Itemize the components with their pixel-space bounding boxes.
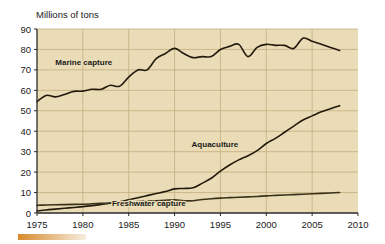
decorative-bottom-bar bbox=[18, 234, 86, 240]
series-label-freshwater-capture: Freshwater capture bbox=[112, 199, 186, 208]
bottom-bar-swatch bbox=[18, 234, 86, 240]
y-tick-label: 30 bbox=[20, 146, 31, 157]
x-tick-label: 1995 bbox=[210, 219, 231, 230]
x-tick-label: 1990 bbox=[164, 219, 185, 230]
x-tick-label: 1985 bbox=[118, 219, 139, 230]
x-tick-label: 2010 bbox=[347, 219, 368, 230]
y-tick-label: 70 bbox=[20, 64, 31, 75]
chart-canvas: Millions of tons Marine captureMarine ca… bbox=[0, 0, 385, 244]
y-tick-label: 80 bbox=[20, 44, 31, 55]
y-tick-label: 0 bbox=[26, 208, 31, 219]
x-tick-label: 2000 bbox=[256, 219, 277, 230]
x-tick-label: 2005 bbox=[302, 219, 323, 230]
x-tick-label: 1980 bbox=[72, 219, 93, 230]
y-tick-label: 90 bbox=[20, 24, 31, 35]
fisheries-production-chart: Millions of tons Marine captureMarine ca… bbox=[0, 0, 385, 244]
y-tick-label: 10 bbox=[20, 187, 31, 198]
y-tick-label: 60 bbox=[20, 85, 31, 96]
series-label-aquaculture: Aquaculture bbox=[192, 140, 239, 149]
y-tick-label: 50 bbox=[20, 105, 31, 116]
y-tick-label: 20 bbox=[20, 167, 31, 178]
y-axis-title: Millions of tons bbox=[36, 9, 99, 20]
y-tick-label: 40 bbox=[20, 126, 31, 137]
x-tick-label: 1975 bbox=[26, 219, 47, 230]
series-label-marine-capture: Marine capture bbox=[55, 58, 112, 67]
